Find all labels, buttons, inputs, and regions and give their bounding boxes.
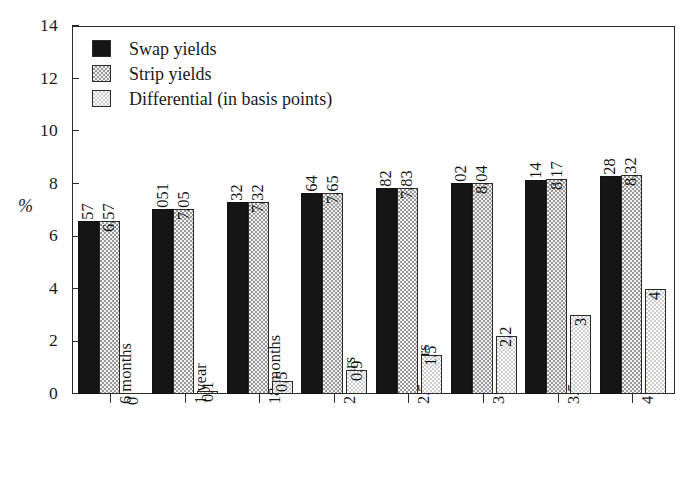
bar-strip <box>322 193 343 394</box>
x-axis-tick-mark <box>408 394 409 403</box>
bar-value-label: 7.64 <box>303 175 320 204</box>
y-axis-tick-label: 0 <box>14 385 58 403</box>
legend-item-label: Swap yields <box>129 40 217 58</box>
bar-value-label: 8.02 <box>452 165 469 194</box>
bar-differential <box>645 289 666 394</box>
y-axis-tick-label: 12 <box>14 70 58 88</box>
bar-strip <box>397 188 418 394</box>
bar-value-label: 1.5 <box>422 345 439 366</box>
bar-value-label: 7.65 <box>324 175 341 204</box>
legend-item: Swap yields <box>92 36 392 61</box>
legend-item: Differential (in basis points) <box>92 86 392 111</box>
bar-value-label: 7.32 <box>249 184 266 213</box>
y-axis-tick-mark <box>72 25 79 26</box>
bar-swap <box>78 221 99 394</box>
x-axis-tick-label: 6 months <box>117 343 134 404</box>
bar-value-label: 8.14 <box>527 162 544 191</box>
bar-strip <box>99 221 120 394</box>
bar-value-label: 0.1 <box>199 382 216 403</box>
bar-value-label: 8.04 <box>473 165 490 194</box>
bar-strip <box>546 179 567 394</box>
bar-swap <box>152 209 173 394</box>
bar-value-label: 8.32 <box>622 157 639 186</box>
y-axis-tick-label: 6 <box>14 227 58 245</box>
bar-swap <box>525 180 546 394</box>
y-axis-tick-label: 2 <box>14 332 58 350</box>
bar-swap <box>600 176 621 394</box>
bar-value-label: 7.83 <box>398 170 415 199</box>
bar-strip <box>472 183 493 394</box>
legend-item: Strip yields <box>92 61 392 86</box>
bar-value-label: 0.5 <box>273 371 290 392</box>
legend-swatch-icon <box>92 90 111 107</box>
bar-value-label: 8.28 <box>601 158 618 187</box>
bar-value-label: 8.17 <box>548 161 565 190</box>
bar-chart-figure: 14121086420 % 6 months1 year18 months2 y… <box>0 0 692 497</box>
bar-differential <box>570 315 591 394</box>
bar-swap <box>301 193 322 394</box>
bar-value-label: 7.32 <box>228 184 245 213</box>
x-axis-tick-mark <box>558 394 559 403</box>
bar-strip <box>248 202 269 394</box>
legend-swatch-icon <box>92 65 111 82</box>
legend-item-label: Strip yields <box>129 65 212 83</box>
bar-strip <box>621 175 642 394</box>
y-axis-tick-label: 10 <box>14 122 58 140</box>
x-axis-tick-mark <box>483 394 484 403</box>
x-axis-tick-mark <box>334 394 335 403</box>
y-axis-tick-label: 8 <box>14 175 58 193</box>
x-axis-tick-mark <box>632 394 633 403</box>
bar-swap <box>451 183 472 394</box>
bar-swap <box>227 202 248 394</box>
bar-value-label: 6.57 <box>100 203 117 232</box>
bar-value-label: 6.57 <box>79 203 96 232</box>
bar-value-label: 0 <box>124 397 141 405</box>
bar-value-label: 7.051 <box>154 183 171 220</box>
legend-item-label: Differential (in basis points) <box>129 90 332 108</box>
x-axis-tick-mark <box>259 394 260 403</box>
y-axis-tick-mark <box>72 130 79 131</box>
x-axis-tick-mark <box>185 394 186 403</box>
bar-value-label: 7.82 <box>377 171 394 200</box>
y-axis-tick-mark <box>72 78 79 79</box>
bar-value-label: 7.05 <box>175 191 192 220</box>
y-axis-tick-label: 4 <box>14 280 58 298</box>
bar-swap <box>376 188 397 394</box>
y-axis-label: % <box>18 196 33 217</box>
y-axis-tick-mark <box>72 183 79 184</box>
chart-legend: Swap yieldsStrip yieldsDifferential (in … <box>92 36 392 111</box>
bar-value-label: 0.9 <box>348 361 365 382</box>
legend-swatch-icon <box>92 40 111 57</box>
bar-value-label: 2.2 <box>497 327 514 348</box>
bar-value-label: 3 <box>572 318 589 326</box>
x-axis-tick-mark <box>110 394 111 403</box>
bar-strip <box>173 209 194 394</box>
bar-value-label: 4 <box>646 292 663 300</box>
y-axis-tick-label: 14 <box>14 17 58 35</box>
